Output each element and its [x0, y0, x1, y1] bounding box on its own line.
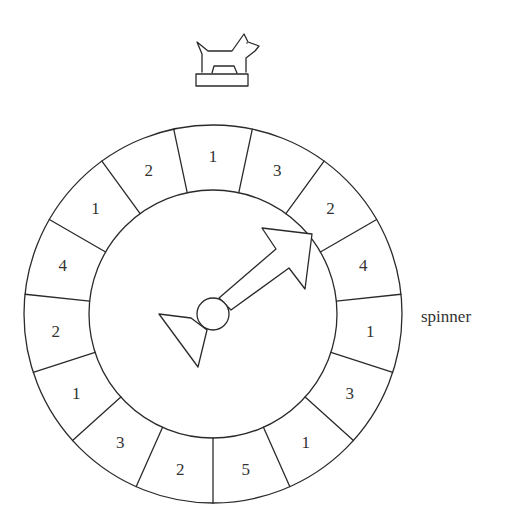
dog-token-icon: [196, 34, 259, 86]
segment-divider: [331, 352, 393, 372]
segment-divider: [25, 294, 90, 301]
segment-label: 2: [326, 199, 335, 218]
spinner-caption: spinner: [421, 307, 471, 326]
segment-label: 4: [359, 256, 368, 275]
segment-divider: [305, 397, 353, 440]
segment-label: 1: [302, 433, 311, 452]
segment-divider: [320, 220, 376, 253]
segment-label: 1: [209, 147, 218, 166]
spinner-diagram: 132413152312412 spinner: [0, 0, 514, 528]
spinner-arrow[interactable]: [159, 228, 312, 367]
segment-label: 3: [273, 161, 282, 180]
segment-divider: [174, 129, 188, 193]
segment-label: 5: [242, 460, 251, 479]
token-base: [196, 74, 248, 86]
arrow-hub: [197, 298, 229, 330]
arrow-shaft-and-head: [219, 228, 312, 310]
dog-legs-arch: [212, 66, 237, 73]
dog-eye: [246, 42, 248, 44]
segment-divider: [49, 220, 105, 253]
segment-divider: [73, 397, 121, 440]
segment-divider: [33, 352, 95, 372]
segment-divider: [336, 294, 401, 301]
segment-label: 2: [176, 460, 185, 479]
segment-divider: [136, 427, 162, 486]
segment-label: 3: [346, 384, 355, 403]
segment-label: 1: [72, 384, 81, 403]
segment-divider: [286, 161, 324, 214]
segment-label: 3: [116, 433, 125, 452]
segment-divider: [239, 129, 253, 193]
segment-label: 1: [91, 199, 100, 218]
segment-label: 1: [366, 322, 375, 341]
segment-divider: [102, 161, 140, 214]
segment-label: 4: [58, 256, 67, 275]
segment-divider: [263, 427, 289, 486]
segment-label: 2: [144, 161, 153, 180]
segment-label: 2: [52, 322, 61, 341]
